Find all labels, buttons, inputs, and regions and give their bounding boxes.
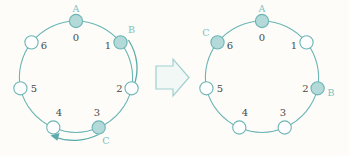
- right-node-6[interactable]: [211, 36, 224, 49]
- left-slot-label-0: 0: [73, 32, 79, 43]
- left-slot-label-1: 1: [105, 40, 111, 51]
- right-node-1[interactable]: [300, 36, 313, 49]
- left-ring-panel: 0 1 2 3 4 5 6 A B C: [14, 3, 138, 146]
- left-slot-label-2: 2: [116, 83, 122, 94]
- left-arc-4-5: [20, 88, 53, 127]
- right-token-label-a: A: [258, 3, 266, 14]
- left-node-1[interactable]: [114, 36, 127, 49]
- right-slot-label-4: 4: [242, 107, 248, 118]
- right-node-4[interactable]: [233, 121, 246, 134]
- right-arc-4-5: [206, 88, 239, 127]
- left-token-label-a: A: [72, 3, 80, 14]
- left-slot-label-6: 6: [41, 40, 47, 51]
- left-token-label-b: B: [128, 24, 135, 35]
- left-slot-label-5: 5: [31, 83, 37, 94]
- ring-transition-diagram: 0 1 2 3 4 5 6 A B C: [0, 0, 349, 156]
- left-slot-label-4: 4: [56, 107, 62, 118]
- left-node-6[interactable]: [25, 36, 38, 49]
- left-node-2[interactable]: [125, 82, 138, 95]
- right-slot-label-2: 2: [302, 83, 308, 94]
- right-arc-6-0: [218, 21, 263, 42]
- big-right-arrow-icon: [156, 59, 189, 96]
- right-arc-0-1: [262, 21, 307, 42]
- right-token-label-c: C: [202, 27, 209, 38]
- right-slot-label-3: 3: [280, 107, 286, 118]
- left-node-0[interactable]: [69, 14, 82, 27]
- right-token-label-b: B: [328, 87, 335, 98]
- right-node-3[interactable]: [278, 121, 291, 134]
- left-arc-6-0: [32, 21, 77, 42]
- left-node-3[interactable]: [92, 121, 105, 134]
- right-node-5[interactable]: [200, 82, 213, 95]
- right-ring-panel: 0 1 2 3 4 5 6 A B C: [200, 3, 335, 134]
- right-slot-label-1: 1: [291, 40, 297, 51]
- right-node-2[interactable]: [311, 82, 324, 95]
- figure-canvas: 0 1 2 3 4 5 6 A B C: [0, 0, 349, 156]
- right-node-0[interactable]: [255, 14, 268, 27]
- right-slot-label-0: 0: [259, 32, 265, 43]
- left-move-arrow-c-curve: [57, 135, 99, 141]
- right-arc-2-3: [285, 88, 318, 127]
- left-arc-0-1: [76, 21, 121, 42]
- left-arc-2-3: [99, 88, 132, 127]
- right-slot-label-5: 5: [217, 83, 223, 94]
- left-token-label-c: C: [102, 135, 109, 146]
- right-slot-label-6: 6: [227, 40, 233, 51]
- left-node-4[interactable]: [47, 121, 60, 134]
- left-slot-label-3: 3: [94, 107, 100, 118]
- left-move-arrow-c: [51, 133, 99, 141]
- transition-arrow: [156, 59, 189, 96]
- left-node-5[interactable]: [14, 82, 27, 95]
